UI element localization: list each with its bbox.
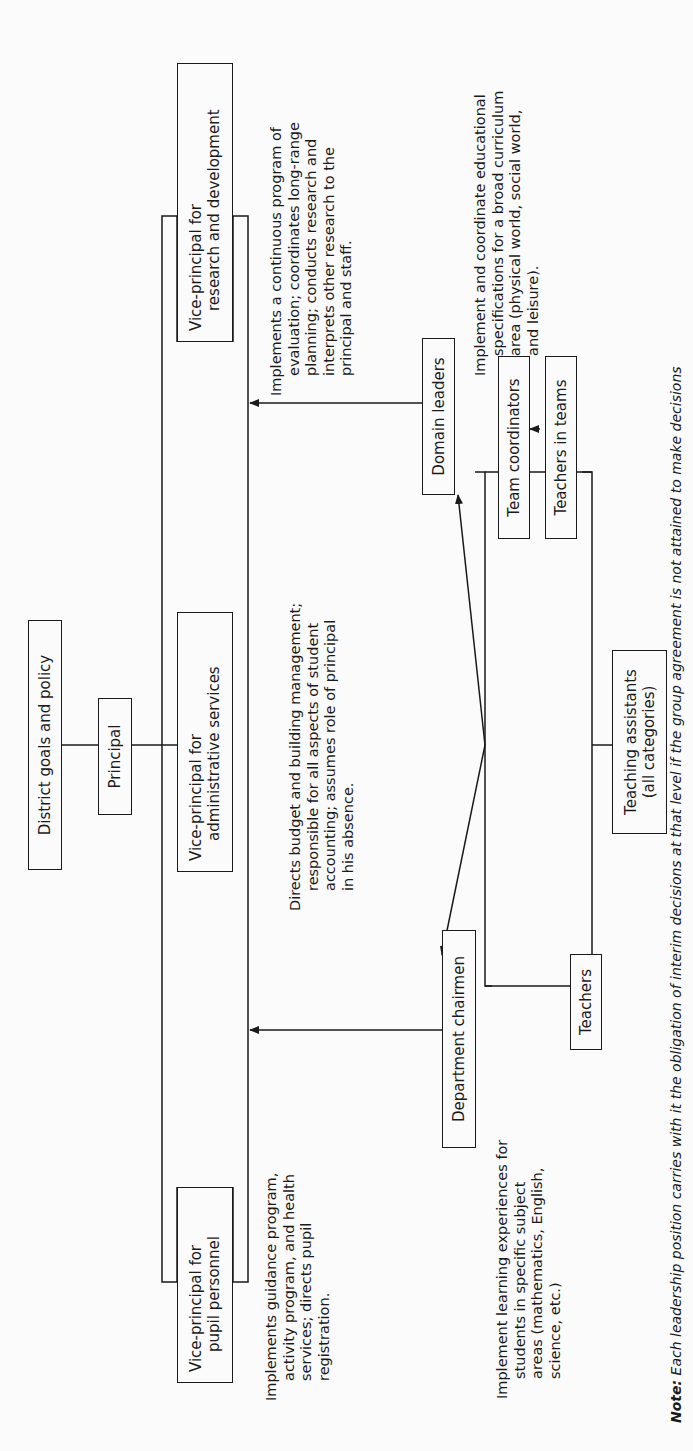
footnote: Note: Each leadership position carries w…: [668, 366, 684, 1423]
footnote-text: Each leadership position carries with it…: [668, 366, 684, 1375]
team-coordinators-box: Team coordinators: [498, 356, 530, 539]
desc-line: interprets other research to the: [321, 122, 339, 396]
vp-pupil-line2: pupil personnel: [205, 1198, 223, 1372]
vp-research-description: Implements a continuous program of evalu…: [268, 122, 356, 396]
domain-leaders-description: Implement and coordinate educational spe…: [472, 91, 542, 376]
desc-line: Implements a continuous program of: [268, 122, 286, 396]
teachers-in-teams-box: Teachers in teams: [545, 356, 577, 539]
desc-line: activity program, and health: [281, 1173, 299, 1401]
teachers-label: Teachers: [577, 969, 595, 1035]
vp-pupil-box: Vice-principal for pupil personnel: [177, 1187, 233, 1383]
principal-label: Principal: [106, 725, 124, 789]
desc-line: specifications for a broad curriculum: [490, 91, 508, 376]
desc-line: Directs budget and building management;: [287, 603, 305, 911]
vp-admin-line2: administrative services: [205, 623, 223, 861]
desc-line: Implement and coordinate educational: [472, 91, 490, 376]
teachers-in-teams-label: Teachers in teams: [552, 380, 570, 516]
desc-line: evaluation; coordinates long-range: [286, 122, 304, 396]
desc-line: principal and staff.: [338, 122, 356, 396]
principal-box: Principal: [98, 698, 132, 815]
desc-line: registration.: [316, 1173, 334, 1401]
desc-line: Implements guidance program,: [263, 1173, 281, 1401]
desc-line: area (physical world, social world,: [507, 91, 525, 376]
vp-pupil-line1: Vice-principal for: [187, 1198, 205, 1372]
desc-line: areas (mathematics, English,: [529, 1140, 547, 1399]
vp-pupil-description: Implements guidance program, activity pr…: [263, 1173, 333, 1401]
domain-leaders-box: Domain leaders: [422, 338, 455, 495]
desc-line: responsible for all aspects of student: [305, 603, 323, 911]
desc-line: planning; conducts research and: [303, 122, 321, 396]
vp-admin-line1: Vice-principal for: [187, 623, 205, 861]
teaching-assistants-box: Teaching assistants (all categories): [612, 650, 667, 834]
desc-line: students in specific subject: [512, 1140, 530, 1399]
team-coordinators-label: Team coordinators: [505, 378, 523, 516]
desc-line: in his absence.: [340, 603, 358, 911]
vp-research-line1: Vice-principal for: [187, 74, 205, 331]
org-chart-page: District goals and policy Principal Vice…: [0, 0, 693, 1451]
district-goals-label: District goals and policy: [36, 655, 54, 835]
desc-line: and leisure).: [525, 91, 543, 376]
desc-line: accounting; assumes role of principal: [322, 603, 340, 911]
vp-admin-description: Directs budget and building management; …: [287, 603, 357, 911]
vp-research-line2: research and development: [205, 74, 223, 331]
department-chairmen-box: Department chairmen: [442, 930, 476, 1148]
department-chairmen-label: Department chairmen: [450, 956, 468, 1122]
desc-line: science, etc.): [547, 1140, 565, 1399]
district-goals-box: District goals and policy: [28, 620, 62, 870]
teaching-assistants-line1: Teaching assistants: [622, 669, 640, 815]
teachers-box: Teachers: [570, 954, 602, 1050]
vp-admin-box: Vice-principal for administrative servic…: [177, 612, 233, 872]
desc-line: Implement learning experiences for: [494, 1140, 512, 1399]
domain-leaders-label: Domain leaders: [430, 357, 448, 475]
teaching-assistants-line2: (all categories): [640, 686, 658, 799]
department-chairmen-description: Implement learning experiences for stude…: [494, 1140, 564, 1399]
footnote-prefix: Note:: [668, 1380, 684, 1423]
vp-research-box: Vice-principal for research and developm…: [177, 63, 233, 342]
desc-line: services; directs pupil: [298, 1173, 316, 1401]
